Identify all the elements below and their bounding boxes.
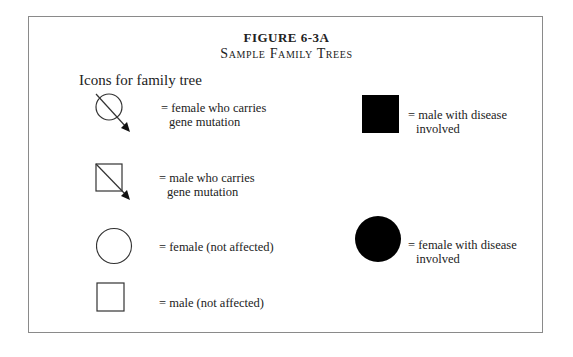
open-circle-icon [96,227,136,267]
filled-square-icon [361,94,401,134]
label-female-affected: = female with disease involved [408,238,517,266]
label-male-affected: = male with disease involved [408,108,507,136]
label-female-unaffected: = female (not affected) [159,240,274,254]
filled-circle-icon [354,215,402,263]
open-square-icon [96,282,128,314]
figure-number: FIGURE 6-3A [0,30,573,46]
label-male-unaffected: = male (not affected) [159,296,264,310]
legend-heading: Icons for family tree [79,72,202,89]
circle-with-arrow-icon [94,92,134,136]
figure-title: Sample Family Trees [0,46,573,62]
label-male-carrier: = male who carries gene mutation [159,171,255,199]
square-with-arrow-icon [95,163,135,203]
label-female-carrier: = female who carries gene mutation [161,101,266,129]
